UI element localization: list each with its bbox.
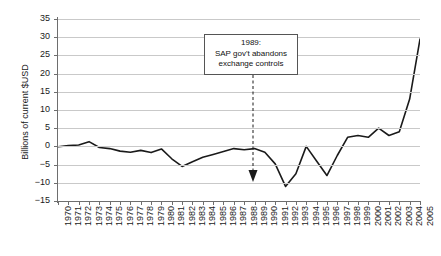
annotation-line-2: SAP gov't abandons xyxy=(207,49,295,60)
sap-annotation-box: 1989: SAP gov't abandons exchange contro… xyxy=(204,34,298,75)
chart-container: Billions of current $USD 35302520151050−… xyxy=(0,0,441,256)
annotation-line-1: 1989: xyxy=(207,38,295,49)
annotation-line-3: exchange controls xyxy=(207,59,295,70)
